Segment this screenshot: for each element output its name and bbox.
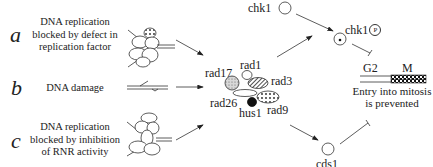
outcome-text: Entry into mitosis is prevented xyxy=(351,85,433,109)
label-g2: G2 xyxy=(363,62,378,74)
label-rad26: rad26 xyxy=(210,97,237,109)
inhibit-cds1-to-g2m xyxy=(340,123,368,144)
arrow-complex-to-chk1 xyxy=(277,36,312,57)
arrow-a-to-complex xyxy=(176,40,203,55)
label-chk1-phospho: chk1P xyxy=(345,24,381,36)
chk1-shape xyxy=(279,2,291,14)
label-hus1: hus1 xyxy=(239,107,262,119)
arrow-c-to-complex xyxy=(176,125,203,140)
label-rad3: rad3 xyxy=(271,75,292,87)
m-phase-bar xyxy=(391,75,426,83)
label-m: M xyxy=(402,62,413,74)
replication-fork-c-icon xyxy=(127,113,172,156)
label-cds1: cds1 xyxy=(316,158,338,167)
damaged-dna-icon xyxy=(127,81,168,91)
phospho-icon: P xyxy=(369,24,381,36)
replication-fork-a-icon xyxy=(128,28,175,67)
row-letter-b: b xyxy=(11,77,22,99)
label-rad1: rad1 xyxy=(240,59,261,71)
rad3-shape xyxy=(248,78,268,89)
label-rad9: rad9 xyxy=(267,104,288,116)
row-a-description: DNA replication blocked by defect in rep… xyxy=(27,16,123,54)
arrow-chk1-to-phospho xyxy=(296,14,333,31)
inhibit-chk1-to-g2m xyxy=(352,44,370,53)
row-letter-a: a xyxy=(10,24,21,46)
row-letter-c: c xyxy=(11,130,21,152)
label-chk1: chk1 xyxy=(248,2,271,14)
row-b-description: DNA damage xyxy=(27,82,123,95)
arrow-complex-to-cds1 xyxy=(290,125,318,140)
rad9-shape xyxy=(257,91,279,103)
label-rad17: rad17 xyxy=(205,67,232,79)
row-c-description: DNA replication blocked by inhibition of… xyxy=(27,121,123,159)
cds1-shape xyxy=(322,143,334,155)
